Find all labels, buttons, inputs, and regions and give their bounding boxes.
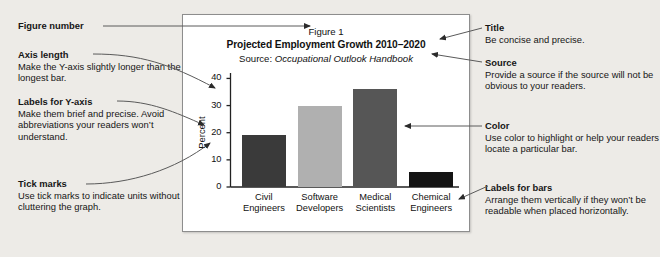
annotation-heading: Title xyxy=(485,22,660,34)
bar-label-line: Developers xyxy=(292,203,348,214)
bars-layer: CivilEngineersSoftwareDevelopersMedicalS… xyxy=(183,15,471,233)
bar xyxy=(409,172,453,187)
annotation-body: Use color to highlight or help your read… xyxy=(485,132,660,155)
annotation-title: Title Be concise and precise. xyxy=(485,22,660,45)
bar-label: ChemicalEngineers xyxy=(403,192,459,215)
bar-label-line: Chemical xyxy=(403,192,459,203)
annotation-body: Use tick marks to indicate units without… xyxy=(18,190,194,213)
bar-label-line: Software xyxy=(292,192,348,203)
annotation-body: Make the Y-axis slightly longer than the… xyxy=(18,61,194,84)
bar-label: MedicalScientists xyxy=(348,192,404,215)
annotation-body: Arrange them vertically if they won’t be… xyxy=(485,194,660,217)
annotation-body: Make them brief and precise. Avoid abbre… xyxy=(18,108,194,143)
annotation-heading: Labels for bars xyxy=(485,182,660,194)
bar-label-line: Engineers xyxy=(403,203,459,214)
annotation-labels-for-bars: Labels for bars Arrange them vertically … xyxy=(485,182,660,217)
bar xyxy=(353,89,397,187)
annotation-labels-for-y-axis: Labels for Y-axis Make them brief and pr… xyxy=(18,96,194,142)
bar-label: SoftwareDevelopers xyxy=(292,192,348,215)
annotation-source: Source Provide a source if the source wi… xyxy=(485,57,660,92)
bar xyxy=(242,135,286,187)
figure-card: Figure 1 Projected Employment Growth 201… xyxy=(182,14,470,232)
annotation-color: Color Use color to highlight or help you… xyxy=(485,120,660,155)
annotation-heading: Color xyxy=(485,120,660,132)
bar-label: CivilEngineers xyxy=(236,192,292,215)
annotation-tick-marks: Tick marks Use tick marks to indicate un… xyxy=(18,178,194,213)
bar-label-line: Engineers xyxy=(236,203,292,214)
annotation-body: Provide a source if the source will not … xyxy=(485,69,660,92)
bar-label-line: Scientists xyxy=(348,203,404,214)
annotation-heading: Axis length xyxy=(18,49,194,61)
annotation-heading: Tick marks xyxy=(18,178,194,190)
annotation-heading: Labels for Y-axis xyxy=(18,96,194,108)
annotation-figure-number: Figure number xyxy=(18,20,194,32)
bar xyxy=(298,106,342,187)
annotation-heading: Figure number xyxy=(18,20,194,32)
bar-label-line: Medical xyxy=(348,192,404,203)
annotation-axis-length: Axis length Make the Y-axis slightly lon… xyxy=(18,49,194,84)
annotation-body: Be concise and precise. xyxy=(485,34,660,46)
bar-chart-plot: 010203040 Percent CivilEngineersSoftware… xyxy=(183,15,471,233)
bar-label-line: Civil xyxy=(236,192,292,203)
annotation-heading: Source xyxy=(485,57,660,69)
